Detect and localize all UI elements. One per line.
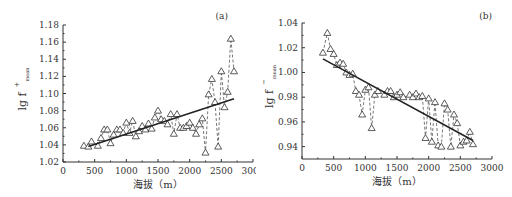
y-tick-label: 1.06 [39, 123, 59, 133]
y-tick-label: 1.14 [39, 54, 59, 64]
y-tick-label: 1.10 [39, 89, 59, 99]
y-axis-label: lg f+mean [13, 67, 30, 111]
triangle-marker-icon [199, 115, 206, 121]
x-tick-label: 3000 [481, 163, 504, 173]
triangle-marker-icon [441, 100, 448, 106]
triangle-marker-icon [227, 35, 234, 41]
triangle-marker-icon [224, 88, 231, 94]
triangle-marker-icon [98, 135, 105, 141]
x-tick-label: 500 [86, 166, 103, 176]
y-tick-label: 0.96 [278, 117, 298, 127]
triangle-marker-icon [368, 125, 375, 131]
chart-panel-b: 0500100015002000250030000.940.960.981.00… [256, 0, 512, 197]
x-tick-label: 1500 [147, 166, 170, 176]
triangle-marker-icon [221, 104, 228, 110]
y-tick-label: 1.08 [39, 106, 59, 116]
triangle-marker-icon [432, 99, 439, 105]
triangle-marker-icon [428, 138, 435, 144]
triangle-marker-icon [208, 75, 215, 81]
y-axis-label-main: lg f [263, 89, 276, 108]
y-tick-label: 0.94 [278, 142, 298, 152]
x-tick-label: 1000 [115, 166, 138, 176]
triangle-marker-icon [425, 95, 432, 101]
triangle-marker-icon [466, 128, 473, 134]
chart-b-svg: 0500100015002000250030000.940.960.981.00… [256, 0, 512, 197]
x-tick-label: 500 [325, 163, 342, 173]
y-tick-label: 0.98 [278, 92, 298, 102]
y-axis-label-main: lg f [16, 92, 29, 111]
x-tick-label: 2500 [210, 166, 233, 176]
triangle-marker-icon [422, 134, 429, 140]
x-tick-label: 3000 [242, 166, 256, 176]
triangle-marker-icon [145, 120, 152, 126]
panel-label: (a) [216, 11, 228, 21]
triangle-marker-icon [218, 68, 225, 74]
triangle-marker-icon [215, 143, 222, 149]
triangle-marker-icon [151, 114, 158, 120]
triangle-marker-icon [174, 111, 181, 117]
panel-label: (b) [479, 11, 492, 21]
triangle-marker-icon [454, 120, 461, 126]
y-tick-label: 1.16 [39, 37, 59, 47]
triangle-marker-icon [193, 130, 200, 136]
x-axis-label: 海拔（m） [133, 178, 182, 190]
triangle-marker-icon [470, 141, 477, 147]
chart-a-svg: 0500100015002000250030001.021.041.061.08… [0, 0, 256, 197]
triangle-marker-icon [319, 49, 326, 55]
x-tick-label: 0 [299, 163, 305, 173]
triangle-marker-icon [202, 149, 209, 155]
triangle-marker-icon [123, 119, 130, 125]
triangle-marker-icon [447, 143, 454, 149]
linear-fit-line [323, 59, 473, 141]
observed-series-line [323, 33, 473, 147]
y-axis-label-sup: − [260, 79, 268, 85]
triangle-marker-icon [196, 121, 203, 127]
x-tick-label: 1000 [354, 163, 377, 173]
y-axis-label-sub: mean [24, 67, 30, 82]
triangle-marker-icon [88, 138, 95, 144]
x-axis-label: 海拔（m） [372, 175, 421, 187]
y-tick-label: 1.12 [39, 71, 59, 81]
x-tick-label: 2500 [449, 163, 472, 173]
y-tick-label: 1.02 [278, 43, 298, 53]
y-axis-label: lg f−mean [260, 64, 277, 108]
triangle-marker-icon [186, 119, 193, 125]
y-tick-label: 1.04 [39, 140, 59, 150]
triangle-marker-icon [129, 117, 136, 123]
y-tick-label: 1.00 [278, 67, 298, 77]
triangle-marker-icon [155, 107, 162, 113]
x-tick-label: 1500 [386, 163, 409, 173]
triangle-marker-icon [359, 111, 366, 117]
x-tick-label: 2000 [178, 166, 201, 176]
y-tick-label: 1.02 [39, 157, 59, 167]
y-tick-label: 1.18 [39, 20, 59, 30]
triangle-marker-icon [231, 68, 238, 74]
triangle-marker-icon [205, 91, 212, 97]
triangle-marker-icon [324, 29, 331, 35]
x-tick-label: 0 [60, 166, 66, 176]
triangle-marker-icon [327, 45, 334, 51]
triangle-marker-icon [444, 106, 451, 112]
triangle-marker-icon [451, 111, 458, 117]
chart-panel-a: 0500100015002000250030001.021.041.061.08… [0, 0, 256, 197]
y-tick-label: 1.04 [278, 18, 298, 28]
x-tick-label: 2000 [417, 163, 440, 173]
linear-fit-line [88, 99, 234, 147]
triangle-marker-icon [170, 130, 177, 136]
y-axis-label-sub: mean [271, 64, 277, 79]
y-axis-label-sup: + [13, 82, 21, 88]
triangle-marker-icon [167, 111, 174, 117]
